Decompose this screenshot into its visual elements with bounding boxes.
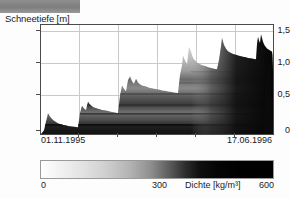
colorbar-gradient	[41, 161, 273, 178]
x-axis-end-label: 17.06.1996	[227, 135, 272, 145]
y-axis-title: Schneetiefe [m]	[5, 13, 70, 24]
redacted-header-strip	[0, 0, 80, 13]
x-axis-start-label: 01.11.1995	[41, 135, 85, 145]
snowpack-density-raster	[41, 25, 273, 134]
x-tick-mark	[195, 133, 196, 137]
colorbar-tick-600: 600	[259, 180, 274, 190]
figure-root: Schneetiefe [m] 1,5 1,0 0,5 0	[0, 0, 290, 198]
colorbar-tick-0: 0	[41, 180, 46, 190]
colorbar-title: Dichte [kg/m³]	[185, 180, 241, 190]
x-tick-mark	[156, 133, 157, 137]
x-tick-mark	[117, 133, 118, 137]
density-colorbar	[40, 160, 274, 179]
colorbar-tick-300: 300	[152, 180, 167, 190]
plot-area	[40, 24, 274, 135]
